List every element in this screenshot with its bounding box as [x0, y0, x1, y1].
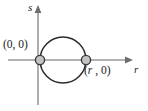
s-axis-arrowhead — [35, 5, 42, 13]
point-label-r: (r , 0) — [84, 65, 111, 77]
r-axis-label: r — [134, 64, 138, 75]
point-label-r-rest: , 0) — [92, 64, 110, 76]
point-label-origin: (0, 0) — [3, 39, 28, 51]
circle-diagram-figure: (0, 0) (r , 0) s r — [0, 0, 148, 111]
r-axis-arrowhead — [125, 57, 133, 64]
point-marker-origin — [35, 55, 44, 64]
s-axis-label: s — [28, 2, 32, 13]
diagram-canvas — [0, 0, 148, 111]
